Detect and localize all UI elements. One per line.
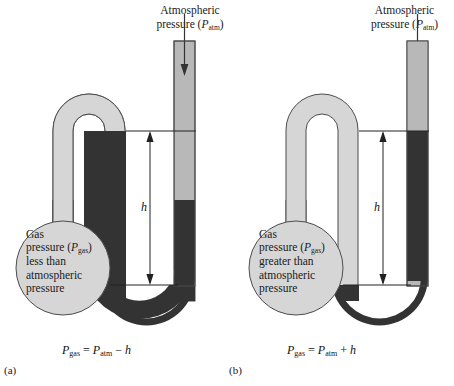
- bulb-line3-b: greater than: [259, 255, 314, 267]
- right-limb-mercury-bottom-a: [174, 285, 195, 301]
- formula-equals-a: =: [80, 343, 93, 357]
- height-label-a: h: [141, 200, 147, 215]
- bulb-subscript-b: gas: [311, 246, 321, 255]
- height-label-b: h: [374, 200, 380, 215]
- formula-equals-b: =: [305, 343, 318, 357]
- bulb-symbol-a: P: [71, 241, 78, 253]
- formula-rhs-subscript-b: atm: [325, 349, 337, 358]
- formula-b: Pgas = Patm + h: [287, 343, 356, 358]
- panel-b: Atmospheric pressure (Patm): [227, 0, 454, 386]
- panel-label-b: (b): [229, 364, 242, 376]
- gas-bulb-label-a: Gas pressure (Pgas) less than atmospheri…: [26, 228, 112, 295]
- h-arrow-head-bottom-b: [379, 274, 386, 285]
- formula-operator-a: −: [112, 343, 125, 357]
- bulb-line1-a: Gas: [26, 228, 44, 240]
- formula-lhs-subscript-b: gas: [294, 349, 305, 358]
- bulb-suffix-a: ): [88, 241, 92, 253]
- panel-label-a: (a): [4, 364, 16, 376]
- formula-term-a: h: [125, 343, 131, 357]
- manometer-figure: Atmospheric pressure (Patm): [0, 0, 454, 386]
- bulb-line4-b: atmospheric: [259, 269, 315, 281]
- formula-rhs-subscript-a: atm: [100, 349, 112, 358]
- open-tube-glass-above-b: [407, 41, 428, 131]
- bulb-suffix-b: ): [321, 241, 325, 253]
- bulb-line5-b: pressure: [259, 282, 297, 294]
- formula-lhs-subscript-a: gas: [69, 349, 80, 358]
- gas-bulb-label-b: Gas pressure (Pgas) greater than atmosph…: [259, 228, 345, 295]
- bulb-line5-a: pressure: [26, 282, 64, 294]
- bulb-line1-b: Gas: [259, 228, 277, 240]
- formula-term-b: h: [350, 343, 356, 357]
- h-arrow-head-top-b: [379, 131, 386, 142]
- bulb-subscript-a: gas: [78, 246, 88, 255]
- bulb-line4-a: atmospheric: [26, 269, 82, 281]
- manometer-drawing-b: [227, 0, 454, 386]
- bulb-prefix-a: pressure (: [26, 241, 71, 253]
- bulb-prefix-b: pressure (: [259, 241, 304, 253]
- manometer-drawing-a: [0, 0, 227, 386]
- bulb-line3-a: less than: [26, 255, 66, 267]
- formula-operator-b: +: [337, 343, 350, 357]
- bulb-symbol-b: P: [304, 241, 311, 253]
- formula-a: Pgas = Patm − h: [62, 343, 131, 358]
- panel-a: Atmospheric pressure (Patm): [0, 0, 227, 386]
- mercury-right-outer-b: [421, 131, 428, 277]
